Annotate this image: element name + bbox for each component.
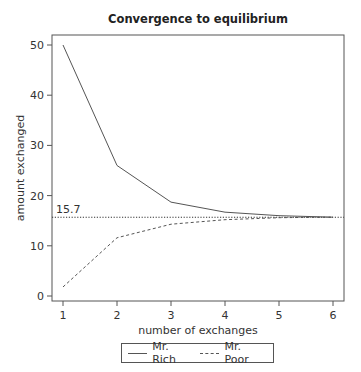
y-tick-label: 10 (30, 240, 44, 253)
series-lines (63, 45, 333, 287)
legend-item-mr-poor: Mr. Poor (200, 340, 263, 366)
legend-label: Mr. Rich (152, 340, 190, 366)
axes: 0102030405012345615.7 (30, 35, 344, 322)
y-tick-label: 0 (37, 290, 44, 303)
line-chart: 0102030405012345615.7 amount exchanged n… (0, 0, 361, 372)
y-tick-label: 20 (30, 190, 44, 203)
x-tick-label: 1 (60, 309, 67, 322)
y-tick-label: 30 (30, 139, 44, 152)
x-tick-label: 4 (222, 309, 229, 322)
dashed-line-swatch-icon (200, 353, 219, 354)
legend: Mr. Rich Mr. Poor (121, 343, 274, 363)
x-tick-label: 6 (330, 309, 337, 322)
y-axis-label: amount exchanged (14, 115, 27, 221)
y-tick-label: 50 (30, 39, 44, 52)
series-mr-poor (63, 217, 333, 287)
x-tick-label: 5 (276, 309, 283, 322)
legend-item-mr-rich: Mr. Rich (128, 340, 190, 366)
x-tick-label: 3 (168, 309, 175, 322)
y-tick-label: 40 (30, 89, 44, 102)
x-axis-label: number of exchanges (138, 324, 258, 337)
x-tick-label: 2 (114, 309, 121, 322)
legend-label: Mr. Poor (224, 340, 263, 366)
solid-line-swatch-icon (128, 353, 147, 354)
series-mr-rich (63, 45, 333, 217)
plot-frame (52, 35, 344, 301)
equilibrium-label: 15.7 (56, 203, 81, 216)
